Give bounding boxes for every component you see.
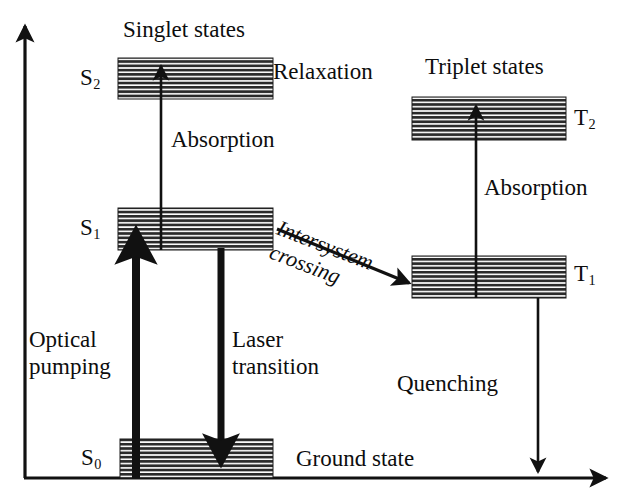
level-band-s0 <box>120 439 273 478</box>
level-label-s2-main: S <box>80 65 93 90</box>
transition-label-laser-transition: Laser transition <box>232 326 319 380</box>
level-label-t2-sub: 2 <box>588 116 596 132</box>
level-band-s2 <box>118 58 273 99</box>
group-title-triplet: Triplet states <box>425 55 544 79</box>
level-label-s2: S2 <box>80 66 100 92</box>
energy-level-diagram: Singlet states Triplet states S2 S1 S0 T… <box>0 0 625 502</box>
level-label-s0-sub: 0 <box>94 456 102 472</box>
level-label-s1: S1 <box>80 216 100 242</box>
group-title-singlet: Singlet states <box>123 18 245 42</box>
optical-pumping-line-1: Optical <box>29 326 111 353</box>
laser-transition-line-2: transition <box>232 353 319 380</box>
level-label-t1-main: T <box>574 261 588 286</box>
level-label-t2: T2 <box>574 106 596 132</box>
level-band-t2 <box>412 97 566 140</box>
transition-label-absorption-triplet: Absorption <box>484 176 588 200</box>
level-label-t1: T1 <box>574 262 596 288</box>
transition-label-quenching: Quenching <box>397 372 498 396</box>
transition-label-optical-pumping: Optical pumping <box>29 326 111 380</box>
optical-pumping-line-2: pumping <box>29 353 111 380</box>
laser-transition-line-1: Laser <box>232 326 319 353</box>
level-label-t1-sub: 1 <box>588 272 596 288</box>
level-label-s0-main: S <box>81 445 94 470</box>
level-band-s1 <box>118 208 273 250</box>
level-label-t2-main: T <box>574 105 588 130</box>
level-label-s1-main: S <box>80 215 93 240</box>
level-name-ground-state: Ground state <box>296 447 414 471</box>
level-label-s2-sub: 2 <box>93 76 101 92</box>
level-label-s0: S0 <box>81 446 101 472</box>
level-label-s1-sub: 1 <box>93 226 101 242</box>
transition-label-absorption-singlet: Absorption <box>171 128 275 152</box>
transition-label-relaxation: Relaxation <box>273 60 373 84</box>
level-band-t1 <box>412 256 566 298</box>
